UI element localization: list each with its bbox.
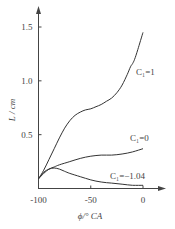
curve-label-c1-0: C₁=0 xyxy=(130,133,149,143)
y-axis-label: L / cm xyxy=(7,98,17,122)
x-axis-arrow-icon xyxy=(158,186,166,191)
curve-label-c1-neg104: C₁=−1.04 xyxy=(110,171,146,181)
x-axis-label: ϕ/° CA xyxy=(78,211,103,221)
y-tick-label: 1.0 xyxy=(21,76,33,86)
curves xyxy=(39,32,144,185)
curve-c1-1 xyxy=(39,32,144,178)
x-tick-label: -100 xyxy=(30,195,47,205)
x-tick-label: -50 xyxy=(85,195,97,205)
y-tick-label: 0.5 xyxy=(21,130,33,140)
y-tick-label: 1.5 xyxy=(21,22,33,32)
curve-label-c1-1: C₁=1 xyxy=(136,67,155,77)
y-axis-arrow-icon xyxy=(36,6,41,14)
x-tick-label: 0 xyxy=(141,195,146,205)
chart: 0.51.01.5 -100-500 C₁=1 C₁=0 C₁=−1.04 L … xyxy=(0,0,175,229)
